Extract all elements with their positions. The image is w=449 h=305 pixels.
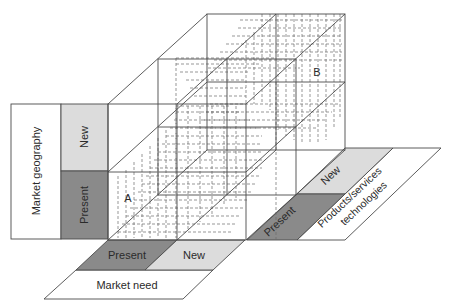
market-need-new-label: New: [183, 249, 205, 261]
market-geography-new-label: New: [78, 126, 90, 148]
point-b-label: B: [313, 66, 320, 78]
point-a-label: A: [124, 192, 132, 204]
market-geography-present-label: Present: [78, 186, 90, 224]
market-need-strip: Present New Market need: [44, 240, 245, 299]
market-geography-title: Market geography: [30, 126, 42, 215]
market-need-title: Market need: [96, 279, 157, 291]
growth-matrix-diagram: New Present Products/services technologi…: [0, 0, 449, 305]
market-need-present-label: Present: [108, 249, 146, 261]
market-geography-panel: Market geography New Present: [11, 104, 108, 239]
